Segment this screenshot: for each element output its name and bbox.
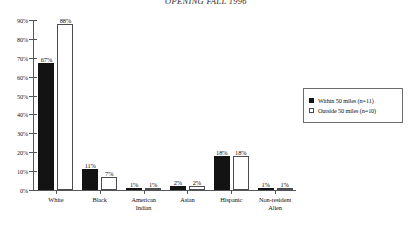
bar: 88% xyxy=(57,24,73,190)
bar: 7% xyxy=(101,177,117,190)
bar-value-label: 11% xyxy=(85,162,96,169)
x-axis-tick xyxy=(144,190,145,194)
bar-group: 1%1% xyxy=(124,20,163,190)
bar: 67% xyxy=(38,63,54,190)
bar-value-label: 2% xyxy=(193,179,201,186)
x-axis-category-label-line: Non-resident xyxy=(244,196,307,204)
y-axis-tick-label: 90% xyxy=(17,17,28,24)
bar: 2% xyxy=(189,186,205,190)
bar: 1% xyxy=(145,188,161,190)
bar-group: 11%7% xyxy=(80,20,119,190)
hollow-square-icon xyxy=(309,108,314,113)
bar-chart: OPENING FALL 1996 0%10%20%30%40%50%60%70… xyxy=(0,0,412,227)
bar-value-label: 1% xyxy=(261,181,269,188)
bar-value-label: 18% xyxy=(216,149,227,156)
bar-value-label: 7% xyxy=(105,170,113,177)
bar-value-label: 1% xyxy=(130,181,138,188)
bar: 2% xyxy=(170,186,186,190)
x-axis-category-label-line: Alien xyxy=(244,204,307,212)
bar-value-label: 67% xyxy=(41,56,52,63)
x-axis-tick xyxy=(56,190,57,194)
legend-item-label: Outside 50 miles (n=10) xyxy=(318,107,376,114)
filled-square-icon xyxy=(309,98,314,103)
y-axis-tick-label: 30% xyxy=(17,130,28,137)
legend-item-label: Within 50 miles (n=11) xyxy=(318,97,374,104)
bar-value-label: 2% xyxy=(174,179,182,186)
y-axis-tick-label: 40% xyxy=(17,111,28,118)
bar-group: 18%18% xyxy=(212,20,251,190)
bar: 18% xyxy=(214,156,230,190)
legend-item: Within 50 miles (n=11) xyxy=(309,97,398,104)
bar-group: 1%1% xyxy=(256,20,295,190)
bar: 1% xyxy=(126,188,142,190)
y-axis-tick-label: 50% xyxy=(17,92,28,99)
x-axis-tick xyxy=(100,190,101,194)
x-axis-line xyxy=(33,190,296,191)
y-axis-tick-label: 20% xyxy=(17,149,28,156)
x-axis-tick xyxy=(231,190,232,194)
y-axis-tick-label: 0% xyxy=(20,187,28,194)
legend-item: Outside 50 miles (n=10) xyxy=(309,107,398,114)
chart-title: OPENING FALL 1996 xyxy=(0,0,412,6)
bar: 18% xyxy=(233,156,249,190)
y-axis-tick-label: 80% xyxy=(17,35,28,42)
bar-group: 2%2% xyxy=(168,20,207,190)
bar-value-label: 1% xyxy=(280,181,288,188)
y-axis-tick-label: 60% xyxy=(17,73,28,80)
bar: 1% xyxy=(277,188,293,190)
y-axis-tick xyxy=(29,190,37,191)
bar-value-label: 1% xyxy=(149,181,157,188)
x-axis-tick xyxy=(187,190,188,194)
x-axis-tick xyxy=(275,190,276,194)
bar-value-label: 88% xyxy=(60,17,71,24)
x-axis-category-label-line: Indian xyxy=(112,204,175,212)
x-axis-category-label: Non-residentAlien xyxy=(244,196,307,212)
y-axis-tick-label: 70% xyxy=(17,54,28,61)
bar-group: 67%88% xyxy=(36,20,75,190)
plot-area: 0%10%20%30%40%50%60%70%80%90% 67%88%11%7… xyxy=(33,20,296,190)
y-axis-tick-label: 10% xyxy=(17,168,28,175)
bar: 11% xyxy=(82,169,98,190)
bar-value-label: 18% xyxy=(235,149,246,156)
chart-legend: Within 50 miles (n=11)Outside 50 miles (… xyxy=(303,88,403,123)
bar: 1% xyxy=(258,188,274,190)
y-axis-line xyxy=(33,20,34,190)
